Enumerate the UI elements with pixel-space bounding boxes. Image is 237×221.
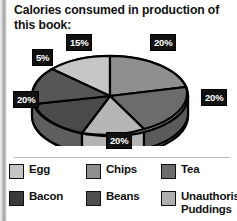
legend-divider <box>14 157 230 158</box>
legend-swatch-egg <box>9 164 24 179</box>
pie-value-label-egg: 15% <box>66 34 92 51</box>
legend-item-egg: Egg <box>9 163 50 179</box>
pie-value-label-tea: 20% <box>201 89 227 106</box>
chart-title: Calories consumed in production of this … <box>14 3 226 33</box>
legend-item-chips: Chips <box>86 163 137 179</box>
legend-swatch-bacon <box>9 191 24 206</box>
pie-value-label-chips: 20% <box>150 34 176 51</box>
chart-plot-area: 15% 20% 5% 20% 20% 20% <box>8 34 237 152</box>
legend-label-chips: Chips <box>106 163 137 176</box>
legend-swatch-beans <box>86 191 101 206</box>
legend-item-beans: Beans <box>86 190 140 206</box>
page-edge-strip <box>0 0 7 221</box>
pie-value-label-bacon: 20% <box>13 91 39 108</box>
legend-label-tea: Tea <box>181 163 199 176</box>
legend-item-tea: Tea <box>161 163 199 179</box>
legend-item-unauthorised-puddings: Unauthorised Puddings <box>161 190 237 215</box>
legend-label-unauthorised-puddings: Unauthorised Puddings <box>181 190 237 215</box>
chart-legend: Egg Chips Tea Bacon Beans Unauthorised P… <box>9 163 237 217</box>
legend-label-beans: Beans <box>106 190 140 203</box>
legend-label-bacon: Bacon <box>29 190 63 203</box>
legend-swatch-chips <box>86 164 101 179</box>
pie-chart-figure: Calories consumed in production of this … <box>0 0 237 221</box>
legend-swatch-unauthorised-puddings <box>161 191 176 206</box>
legend-item-bacon: Bacon <box>9 190 63 206</box>
legend-label-egg: Egg <box>29 163 50 176</box>
legend-swatch-tea <box>161 164 176 179</box>
pie-value-label-beans: 5% <box>32 49 53 66</box>
pie-value-label-unauthorised-puddings: 20% <box>106 132 132 149</box>
